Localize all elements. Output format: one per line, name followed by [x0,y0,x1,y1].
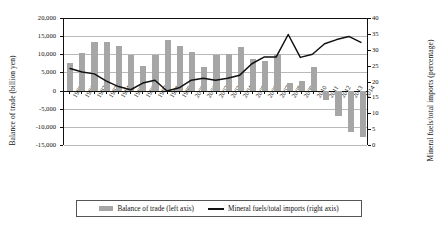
bar-swatch-icon [99,206,113,211]
y-axis-right-tick-mark [368,18,371,19]
y-axis-left-tick-label: 15,000 [22,32,56,39]
y-axis-left-tick-label: 10,000 [22,50,56,57]
y-axis-right-tick-label: 20 [372,78,406,85]
chart-legend: Balance of trade (left axis) Mineral fue… [76,200,362,217]
y-axis-right-tick-label: 40 [372,14,406,21]
legend-item-balance-of-trade: Balance of trade (left axis) [99,205,194,213]
y-axis-left-title: Balance of trade (billion yen) [8,41,17,161]
y-axis-right-tick-mark [368,82,371,83]
line-swatch-icon [208,208,224,210]
y-axis-right-tick-mark [368,34,371,35]
y-axis-right-tick-mark [368,129,371,130]
y-axis-right-tick-mark [368,145,371,146]
legend-label-balance-of-trade: Balance of trade (left axis) [117,205,194,213]
y-axis-right-tick-label: 10 [372,109,406,116]
y-axis-right-title: Mineral fuels/total imports (percentage) [426,11,435,191]
y-axis-right-tick-label: 30 [372,46,406,53]
gridline [64,145,367,146]
mineral-fuels-line [70,35,361,92]
plot-area [63,18,368,145]
y-axis-right-tick-mark [368,66,371,67]
legend-item-mineral-fuels: Mineral fuels/total imports (right axis) [208,205,339,213]
y-axis-left-tick-mark [60,145,63,146]
line-series [64,18,367,145]
y-axis-left-tick-label: 0 [22,87,56,94]
chart-figure: Balance of trade (billion yen) Mineral f… [0,0,436,232]
y-axis-right-tick-label: 0 [372,141,406,148]
y-axis-left-tick-label: -10,000 [22,123,56,130]
y-axis-right-tick-label: 5 [372,125,406,132]
y-axis-left-tick-label: -5,000 [22,105,56,112]
legend-label-mineral-fuels: Mineral fuels/total imports (right axis) [228,205,339,213]
y-axis-right-tick-mark [368,113,371,114]
y-axis-right-tick-mark [368,50,371,51]
y-axis-right-tick-label: 35 [372,30,406,37]
y-axis-right-tick-label: 25 [372,62,406,69]
y-axis-left-tick-label: 20,000 [22,14,56,21]
y-axis-right-tick-label: 15 [372,93,406,100]
y-axis-left-tick-label: -15,000 [22,141,56,148]
y-axis-left-tick-label: 5,000 [22,68,56,75]
